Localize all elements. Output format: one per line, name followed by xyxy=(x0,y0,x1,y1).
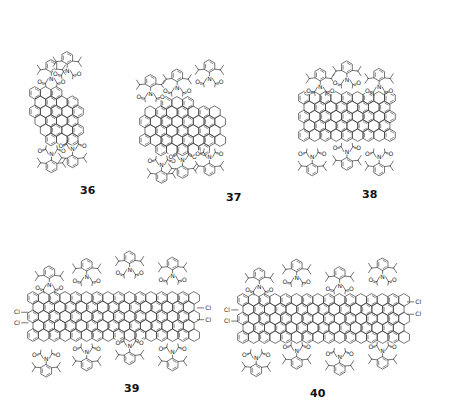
bond-line xyxy=(242,362,245,367)
oxygen-atom: O xyxy=(322,150,327,157)
bond-line xyxy=(291,278,294,283)
bond-line xyxy=(308,355,311,360)
bond-line xyxy=(394,355,397,360)
compound-label-38: 38 xyxy=(362,188,377,201)
oxygen-atom: O xyxy=(356,144,361,151)
bond-line xyxy=(140,84,146,85)
bond-line xyxy=(351,277,354,282)
chlorine-atom: Cl xyxy=(14,308,20,315)
bond-line xyxy=(326,361,329,366)
bond-line xyxy=(135,355,141,356)
bond-line xyxy=(326,92,327,95)
oxygen-atom: O xyxy=(56,351,61,358)
oxygen-atom: O xyxy=(73,277,78,284)
bond-line xyxy=(245,273,248,278)
bond-line xyxy=(176,347,179,352)
bond-line xyxy=(314,92,315,95)
bond-line xyxy=(38,275,44,276)
bond-line xyxy=(141,350,144,355)
bond-line xyxy=(154,93,157,98)
bond-line xyxy=(76,144,79,149)
bond-line xyxy=(171,93,172,96)
oxygen-atom: O xyxy=(139,269,144,276)
oxygen-atom: O xyxy=(61,78,66,85)
bond-line xyxy=(59,158,62,163)
bond-line xyxy=(204,149,205,152)
bond-line xyxy=(345,365,351,366)
structures-figure: OONOONOONOON OONOONOONOONOONOON OONOONOO… xyxy=(0,0,457,419)
bond-line xyxy=(137,85,140,90)
bond-line xyxy=(220,65,223,70)
bond-line xyxy=(253,287,256,292)
nitrogen-atom: N xyxy=(345,148,350,155)
bond-line xyxy=(215,83,216,86)
bond-line xyxy=(283,359,286,364)
bond-line xyxy=(343,285,346,290)
bond-line xyxy=(40,69,46,70)
bond-line xyxy=(390,78,393,83)
bond-line xyxy=(46,149,49,154)
bond-line xyxy=(54,78,57,83)
bond-line xyxy=(352,85,353,88)
bond-line xyxy=(291,283,292,286)
bond-line xyxy=(32,362,35,367)
bond-line xyxy=(51,350,52,353)
aromatic-ring xyxy=(167,329,178,341)
bond-line xyxy=(81,344,82,347)
bond-line xyxy=(267,367,270,372)
oxygen-atom: O xyxy=(116,339,121,346)
bond-line xyxy=(156,156,157,159)
bond-line xyxy=(302,359,308,360)
nitrogen-atom: N xyxy=(84,348,89,355)
aromatic-ring xyxy=(103,329,114,341)
aromatic-ring xyxy=(377,331,388,343)
bond-line xyxy=(341,85,342,88)
oxygen-atom: O xyxy=(283,343,288,350)
bond-line xyxy=(182,93,183,96)
bond-line xyxy=(167,276,170,281)
bond-line xyxy=(60,271,63,276)
oxygen-atom: O xyxy=(349,285,354,292)
compound-39-structure: OONOONOONOONOONOONOONOONClClClCl xyxy=(13,251,212,377)
oxygen-atom: O xyxy=(330,87,335,94)
bond-line xyxy=(261,350,262,353)
bond-line xyxy=(298,161,301,166)
bond-line xyxy=(301,166,307,167)
bond-line xyxy=(178,281,179,284)
oxygen-atom: O xyxy=(96,277,101,284)
bond-line xyxy=(184,361,187,366)
bond-line xyxy=(90,347,93,352)
bond-line xyxy=(90,277,93,282)
bond-line xyxy=(156,160,159,165)
bond-line xyxy=(198,69,204,70)
oxygen-atom: O xyxy=(182,276,187,283)
oxygen-atom: O xyxy=(242,351,247,358)
chlorine-atom: Cl xyxy=(14,319,20,326)
bond-line xyxy=(57,83,58,86)
aromatic-ring xyxy=(356,331,367,343)
bond-line xyxy=(52,367,58,368)
bond-line xyxy=(53,62,56,67)
bond-line xyxy=(352,143,353,146)
bond-line xyxy=(377,277,380,282)
bond-line xyxy=(167,281,168,284)
bond-line xyxy=(283,355,286,360)
bond-line xyxy=(98,264,101,269)
nitrogen-atom: N xyxy=(337,353,342,360)
bond-line xyxy=(55,275,61,276)
bond-line xyxy=(133,341,136,346)
aromatic-ring xyxy=(309,129,320,141)
bond-line xyxy=(212,79,215,84)
bond-line xyxy=(220,70,223,75)
bond-line xyxy=(326,277,329,282)
bond-line xyxy=(57,367,60,372)
bond-line xyxy=(259,353,262,358)
oxygen-atom: O xyxy=(219,78,224,85)
bond-line xyxy=(57,146,58,149)
oxygen-atom: O xyxy=(306,87,311,94)
oxygen-atom: O xyxy=(96,345,101,352)
oxygen-atom: O xyxy=(389,87,394,94)
oxygen-atom: O xyxy=(283,278,288,285)
bond-line xyxy=(334,352,337,357)
aromatic-ring xyxy=(124,329,135,341)
